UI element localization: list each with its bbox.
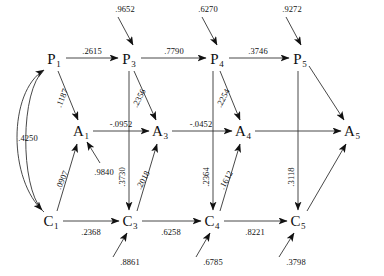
node-P1: P1 — [47, 52, 60, 69]
input-label-C3: .8861 — [120, 258, 140, 267]
node-P4: P4 — [210, 52, 223, 69]
node-C1: C1 — [43, 214, 58, 231]
edge-C5-A5 — [307, 144, 346, 211]
input-label-P5: .9272 — [282, 5, 302, 14]
path-diagram: P1 P3 P4 P5 A1 A3 A4 A5 C1 C3 C4 C5 .261… — [0, 0, 384, 276]
input-arrow-P5 — [286, 17, 301, 45]
node-C4: C4 — [204, 214, 219, 231]
input-arrow-P3 — [118, 17, 133, 45]
node-A1: A1 — [73, 124, 89, 141]
node-A3: A3 — [152, 124, 168, 141]
edge-label-A1-A3: -.0952 — [110, 120, 133, 129]
edge-label-P4-P5: .3746 — [248, 47, 268, 56]
diagram-edges-layer — [0, 0, 384, 276]
input-arrow-C5 — [279, 233, 294, 257]
input-arrow-A1 — [87, 142, 100, 163]
edge-label-C3-C4: .6258 — [161, 228, 181, 237]
input-label-A1: .9840 — [94, 168, 114, 177]
edge-label-A3-A4: -.0452 — [190, 120, 213, 129]
edge-label-P5-C5: .3118 — [287, 167, 296, 186]
input-label-P4: .6270 — [198, 5, 218, 14]
edge-label-P1-P3: .2615 — [82, 47, 102, 56]
edge-label-C1-C3: .2368 — [81, 228, 101, 237]
input-arrow-C4 — [196, 233, 210, 257]
node-P3: P3 — [122, 52, 135, 69]
input-arrow-C3 — [113, 233, 127, 257]
edge-label-C1-P1: .4250 — [18, 134, 38, 143]
edge-label-P4-C4: .2364 — [202, 167, 211, 187]
input-label-P3: .9652 — [115, 5, 135, 14]
edge-label-C4-C5: .8221 — [245, 228, 265, 237]
input-label-C4: .6785 — [203, 258, 223, 267]
input-label-C5: .3798 — [286, 258, 306, 267]
edge-P5-A5 — [309, 66, 344, 120]
edge-label-P3-P4: .7790 — [164, 47, 184, 56]
node-P5: P5 — [293, 52, 306, 69]
node-C3: C3 — [122, 214, 137, 231]
node-A5: A5 — [344, 124, 360, 141]
input-arrow-P4 — [202, 17, 217, 45]
edge-label-P3-C3: .3730 — [118, 167, 127, 187]
node-C5: C5 — [290, 214, 305, 231]
node-A4: A4 — [235, 124, 251, 141]
